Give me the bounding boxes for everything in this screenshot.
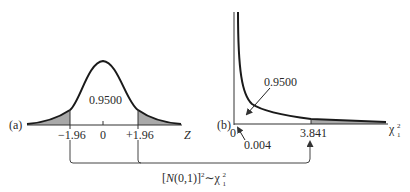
label-N: N xyxy=(166,171,174,185)
lower-value-label: 0.004 xyxy=(244,139,271,151)
panel-b-chisq-plot xyxy=(234,12,388,140)
chisq-axis-label: χ 2 1 xyxy=(389,123,394,135)
diagram-canvas xyxy=(0,0,410,192)
chi-symbol: χ xyxy=(389,122,394,136)
tick-label-zero: 0 xyxy=(100,129,106,141)
label-chi-sub: 1 xyxy=(223,178,227,190)
panel-b-area-label: 0.9500 xyxy=(264,76,297,88)
chi-subscript: 1 xyxy=(397,129,401,141)
transformation-label: [N(0,1)]2∼χ21 xyxy=(162,172,220,184)
tick-label-neg196: −1.96 xyxy=(58,129,86,141)
label-tilde: ∼ xyxy=(205,171,215,185)
label-chi: χ xyxy=(215,171,220,185)
panel-b-tag: (b) xyxy=(217,119,231,131)
tick-label-pos196: +1.96 xyxy=(126,129,154,141)
critical-value-label: 3.841 xyxy=(300,127,327,139)
transformation-connector xyxy=(70,140,310,163)
origin-label: 0 xyxy=(230,127,236,139)
chisq-curve xyxy=(238,12,386,122)
z-axis-label: Z xyxy=(184,129,191,141)
panel-a-area-label: 0.9500 xyxy=(89,94,122,106)
panel-a-tag: (a) xyxy=(9,119,22,131)
label-args: (0,1)] xyxy=(174,171,201,185)
